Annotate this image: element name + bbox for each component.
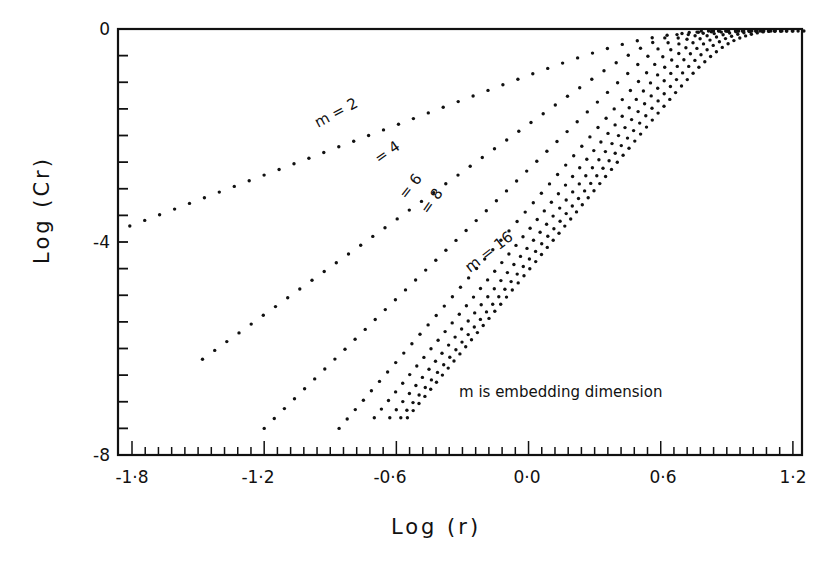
data-point	[592, 189, 595, 192]
data-point	[410, 342, 413, 345]
data-point	[674, 91, 677, 94]
data-point	[335, 261, 338, 264]
data-point	[515, 179, 518, 182]
data-point	[467, 276, 470, 279]
data-point	[213, 349, 216, 352]
data-point	[460, 327, 463, 330]
data-point	[632, 129, 635, 132]
data-point	[686, 78, 689, 81]
data-point	[649, 81, 652, 84]
data-point	[643, 102, 646, 105]
data-point	[532, 201, 535, 204]
data-point	[546, 235, 549, 238]
data-point	[715, 35, 718, 38]
data-point	[323, 367, 326, 370]
x-tick-label-2: -1·2	[241, 467, 274, 487]
data-point	[374, 318, 377, 321]
curve-label-m2: m = 2	[311, 94, 360, 132]
data-point	[469, 165, 472, 168]
data-point	[785, 29, 788, 32]
data-point	[689, 52, 692, 55]
y-axis-ticks	[118, 29, 128, 455]
data-point	[367, 134, 370, 137]
data-point	[773, 29, 776, 32]
data-point	[604, 175, 607, 178]
data-point	[497, 295, 500, 298]
data-point	[653, 63, 656, 66]
data-point	[613, 123, 616, 126]
data-point	[675, 78, 678, 81]
data-point	[767, 30, 770, 33]
data-point	[761, 30, 764, 33]
data-point	[676, 65, 679, 68]
data-point	[411, 401, 414, 404]
data-point	[627, 54, 630, 57]
data-point	[406, 416, 409, 419]
data-point	[412, 409, 415, 412]
data-point	[621, 115, 624, 118]
x-axis-title: Log (r)	[391, 515, 481, 539]
data-point	[697, 31, 700, 34]
data-point	[388, 416, 391, 419]
data-point	[293, 397, 296, 400]
data-point	[421, 376, 424, 379]
data-point	[128, 224, 131, 227]
data-point	[675, 33, 678, 36]
data-point	[143, 219, 146, 222]
data-point	[525, 247, 528, 250]
data-point	[313, 377, 316, 380]
data-point	[444, 249, 447, 252]
data-point	[485, 209, 488, 212]
data-point	[453, 335, 456, 338]
data-point	[629, 89, 632, 92]
data-point	[486, 89, 489, 92]
data-point	[615, 61, 618, 64]
data-point	[511, 288, 514, 291]
data-point	[479, 287, 482, 290]
data-point	[604, 117, 607, 120]
data-point	[380, 407, 383, 410]
data-point	[447, 366, 450, 369]
curve-label-m8: = 8	[417, 185, 447, 217]
data-point	[621, 43, 624, 46]
data-point	[728, 31, 731, 34]
data-point	[545, 150, 548, 153]
data-point	[532, 239, 535, 242]
data-point	[610, 142, 613, 145]
data-point	[546, 246, 549, 249]
curve-label-m6: = 6	[395, 170, 426, 202]
data-point	[515, 220, 518, 223]
data-point	[563, 224, 566, 227]
data-point	[639, 132, 642, 135]
data-point	[606, 47, 609, 50]
data-point	[565, 130, 568, 133]
data-point	[552, 227, 555, 230]
data-point	[370, 389, 373, 392]
data-point	[354, 408, 357, 411]
data-point	[493, 310, 496, 313]
data-point	[454, 348, 457, 351]
data-point	[263, 427, 266, 430]
data-point	[713, 32, 716, 35]
data-point	[606, 132, 609, 135]
data-point	[472, 295, 475, 298]
data-point	[442, 363, 445, 366]
data-point	[337, 145, 340, 148]
data-point	[408, 208, 411, 211]
data-point	[262, 314, 265, 317]
data-point	[656, 87, 659, 90]
data-point	[307, 157, 310, 160]
data-point	[644, 114, 647, 117]
data-point	[364, 328, 367, 331]
x-tick-label-5: 0·6	[649, 467, 676, 487]
data-point	[442, 106, 445, 109]
data-point	[550, 201, 553, 204]
data-point	[473, 325, 476, 328]
data-point	[337, 427, 340, 430]
data-point	[378, 380, 381, 383]
data-point	[506, 271, 509, 274]
data-point	[444, 182, 447, 185]
data-point	[621, 154, 624, 157]
x-tick-label-4: 0·0	[513, 467, 540, 487]
x-tick-label-3: -0·6	[373, 467, 406, 487]
